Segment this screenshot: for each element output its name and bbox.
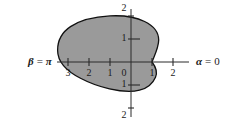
x-tick-label-zero: 0 xyxy=(119,68,129,78)
beta-axis-annotation: β=π xyxy=(28,56,52,67)
x-tick-label-pos1: 1 xyxy=(147,68,157,78)
y-tick-label-neg2: 2 xyxy=(119,110,129,120)
right-equals-sign: = xyxy=(202,55,214,67)
alpha-axis-annotation: α=0 xyxy=(196,56,220,67)
y-tick-label-pos2: 2 xyxy=(119,3,129,13)
x-tick-label-neg1: 1 xyxy=(105,68,115,78)
alpha-value: 0 xyxy=(214,55,220,67)
y-tick-label-neg1: 1 xyxy=(119,79,129,89)
shaded-region xyxy=(58,16,159,92)
left-equals-sign: = xyxy=(34,55,46,67)
x-tick-label-pos2: 2 xyxy=(168,68,178,78)
pi-symbol: π xyxy=(46,55,52,67)
figure-container: β=π α=0 3 2 1 0 1 2 2 1 1 2 xyxy=(0,0,244,130)
x-tick-label-neg2: 2 xyxy=(84,68,94,78)
beta-symbol: β xyxy=(28,55,34,67)
y-tick-label-pos1: 1 xyxy=(119,33,129,43)
x-tick-label-neg3: 3 xyxy=(63,68,73,78)
